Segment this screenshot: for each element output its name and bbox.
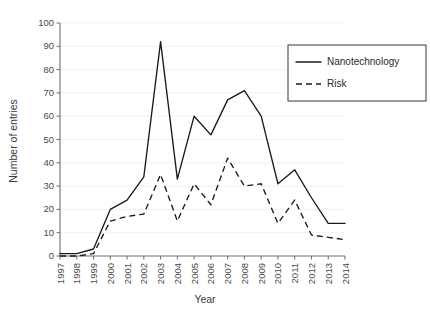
x-tick-label: 2000	[105, 263, 116, 284]
y-tick-label: 90	[43, 40, 54, 51]
y-tick-label: 70	[43, 87, 54, 98]
x-tick-label: 1998	[71, 263, 82, 284]
x-tick-label: 1999	[88, 263, 99, 284]
x-tick-label: 2010	[272, 263, 283, 284]
y-axis-title: Number of entries	[7, 99, 19, 182]
x-tick-label: 2006	[205, 263, 216, 284]
legend-label: Nanotechnology	[327, 56, 399, 67]
x-axis: 1997199819992000200120022003200420052006…	[55, 256, 351, 284]
chart-legend: NanotechnologyRisk	[288, 45, 426, 101]
x-axis-title: Year	[194, 293, 216, 305]
x-tick-label: 2007	[222, 263, 233, 284]
y-tick-label: 0	[49, 250, 54, 261]
x-tick-label: 2009	[256, 263, 267, 284]
x-tick-label: 2004	[172, 263, 183, 284]
x-tick-label: 2014	[340, 263, 351, 284]
y-tick-label: 100	[38, 17, 54, 28]
y-tick-label: 10	[43, 227, 54, 238]
x-tick-label: 2002	[138, 263, 149, 284]
x-tick-label: 2008	[239, 263, 250, 284]
line-chart: 0102030405060708090100 19971998199920002…	[0, 0, 430, 319]
x-tick-label: 2001	[122, 263, 133, 284]
y-tick-label: 40	[43, 157, 54, 168]
legend-box	[288, 45, 426, 101]
y-tick-label: 20	[43, 203, 54, 214]
x-tick-label: 2003	[155, 263, 166, 284]
y-tick-label: 50	[43, 134, 54, 145]
x-tick-label: 2005	[189, 263, 200, 284]
y-tick-label: 80	[43, 64, 54, 75]
x-tick-label: 2012	[306, 263, 317, 284]
y-tick-label: 60	[43, 110, 54, 121]
x-tick-label: 1997	[55, 263, 66, 284]
x-tick-label: 2011	[289, 263, 300, 283]
series-risk	[60, 158, 345, 256]
chart-container: 0102030405060708090100 19971998199920002…	[0, 0, 430, 319]
y-tick-label: 30	[43, 180, 54, 191]
x-tick-label: 2013	[323, 263, 334, 284]
legend-label: Risk	[327, 78, 347, 89]
y-axis: 0102030405060708090100	[38, 17, 60, 261]
